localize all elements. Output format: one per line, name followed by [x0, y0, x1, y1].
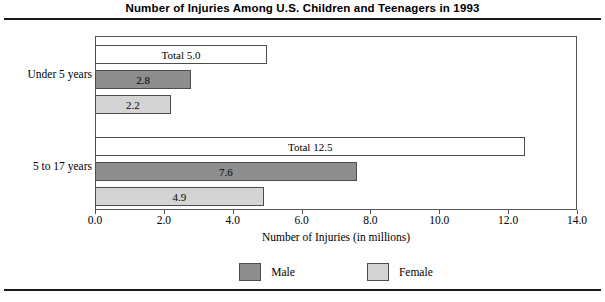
x-tick-label: 8.0: [350, 214, 390, 226]
bar-5-to-17-years-female: 4.9: [95, 187, 264, 206]
category-label-under-5-years: Under 5 years: [0, 68, 92, 80]
x-axis-title: Number of Injuries (in millions): [95, 231, 577, 243]
x-tick-label: 0.0: [75, 214, 115, 226]
category-label-5-to-17-years: 5 to 17 years: [0, 160, 92, 172]
bar-value-label: 4.9: [96, 188, 263, 205]
x-tick-label: 6.0: [282, 214, 322, 226]
legend-entry-male: Male: [239, 263, 295, 281]
bar-value-label: Total 12.5: [96, 138, 524, 155]
bar-value-label: 7.6: [96, 163, 356, 180]
bar-5-to-17-years-male: 7.6: [95, 162, 357, 181]
x-tick-label: 12.0: [488, 214, 528, 226]
bar-value-label: 2.2: [96, 96, 170, 113]
chart-legend: Male Female: [95, 259, 577, 285]
bar-value-label: Total 5.0: [96, 46, 266, 63]
bar-under-5-years-total: Total 5.0: [95, 45, 267, 64]
x-tick-label: 14.0: [557, 214, 597, 226]
bar-value-label: 2.8: [96, 71, 190, 88]
bar-under-5-years-male: 2.8: [95, 70, 191, 89]
legend-label-male: Male: [271, 266, 295, 278]
title-divider-top: [4, 18, 601, 20]
x-tick-label: 4.0: [213, 214, 253, 226]
legend-swatch-female-icon: [367, 263, 389, 281]
figure-divider-bottom: [4, 289, 601, 291]
bar-under-5-years-female: 2.2: [95, 95, 171, 114]
legend-swatch-male-icon: [239, 263, 261, 281]
x-tick-label: 10.0: [419, 214, 459, 226]
legend-entry-female: Female: [367, 263, 433, 281]
bar-5-to-17-years-total: Total 12.5: [95, 137, 525, 156]
legend-label-female: Female: [399, 266, 433, 278]
injuries-bar-chart-figure: Number of Injuries Among U.S. Children a…: [0, 0, 605, 302]
chart-title: Number of Injuries Among U.S. Children a…: [0, 2, 605, 14]
x-tick-label: 2.0: [144, 214, 184, 226]
